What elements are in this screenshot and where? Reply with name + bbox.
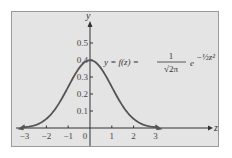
y-tick-label: 0.3 [77,72,89,82]
equation-lhs: y = f(z) = [103,57,139,67]
equation-denominator: √2π [164,64,178,74]
x-tick-label: −1 [63,131,73,141]
equation-numerator: 1 [169,51,174,61]
equation-exponent: −½z² [196,52,215,62]
x-tick-label: 3 [153,131,158,141]
y-tick-label: 0.5 [77,38,89,48]
chart-panel [12,12,219,147]
x-tick-label: 2 [131,131,136,141]
equation-base: e [190,58,194,68]
normal-distribution-chart: −3−2−10123 z 0.10.20.30.40.5 y y = f(z) … [0,0,232,158]
y-tick-label: 0.2 [77,89,88,99]
x-tick-label: 1 [110,131,115,141]
x-tick-label: −3 [20,131,30,141]
x-axis-label: z [213,122,218,133]
y-tick-label: 0.1 [77,106,88,116]
x-tick-label: 0 [83,131,88,141]
y-axis-label: y [85,10,91,21]
x-tick-label: −2 [42,131,52,141]
